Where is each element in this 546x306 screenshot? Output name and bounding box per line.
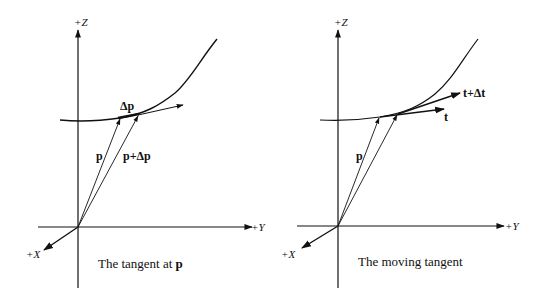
vector-p-plus-dp [78, 116, 138, 227]
y-axis-label: +Y [505, 220, 520, 232]
z-axis-label: +Z [334, 16, 348, 28]
delta-p-label: Δp [120, 99, 135, 113]
left-caption: The tangent at p [98, 256, 183, 271]
x-axis [44, 227, 78, 250]
p-label: p [356, 149, 363, 163]
curve [320, 39, 478, 120]
t-label: t [444, 110, 448, 124]
x-axis-label: +X [281, 248, 296, 260]
p-plus-dp-label: p+Δp [123, 149, 151, 163]
p-label: p [96, 149, 103, 163]
vector-p-plus-dp [338, 115, 397, 226]
x-axis [302, 226, 338, 248]
x-axis-label: +X [26, 248, 41, 260]
vector-p [78, 119, 120, 227]
y-axis-label: +Y [251, 221, 266, 233]
tangent-t [380, 109, 444, 117]
vector-p [338, 118, 379, 226]
delta-p-segment [118, 114, 139, 118]
right-panel: +Z +Y +X p t t+Δt The moving tangent [281, 16, 520, 288]
left-panel: +Z +Y +X Δp p p+Δp The tangent at p [26, 16, 266, 288]
tangent-diagram: +Z +Y +X Δp p p+Δp The tangent at p +Z +… [0, 0, 546, 306]
curve [60, 39, 217, 121]
tangent-line [138, 105, 183, 115]
z-axis-label: +Z [74, 16, 88, 28]
right-caption: The moving tangent [358, 254, 463, 269]
t-plus-dt-label: t+Δt [463, 86, 485, 100]
